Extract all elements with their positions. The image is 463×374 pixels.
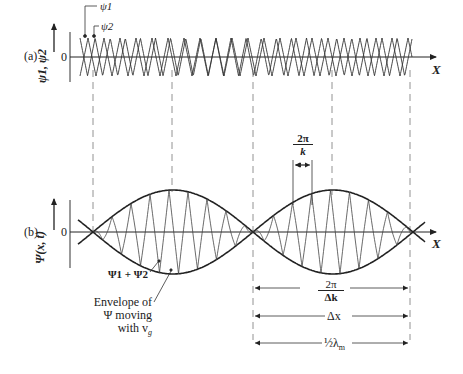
panel-b-x-axis-label: X [432, 236, 441, 252]
psi-label-leaders [84, 6, 100, 38]
annotation-leaders [150, 260, 172, 302]
wave-group-diagram [0, 0, 463, 374]
sum-label: Ψ1 + Ψ2 [108, 268, 148, 280]
panel-b-zero-label: 0 [61, 225, 67, 240]
carrier-period-label: 2π k [293, 132, 313, 157]
panel-a-y-axis-label: ψ1, ψ2 [35, 49, 50, 83]
carrier-period-marker [293, 160, 312, 205]
envelope-label-line-3: with vg [92, 322, 152, 339]
panel-b-y-axis-label: Ψ(x, t) [33, 231, 48, 264]
panel-a-x-axis-label: X [432, 62, 441, 78]
envelope-label: Envelope of Ψ moving with vg [92, 296, 152, 339]
half-lambda-label: ½λm [324, 336, 345, 352]
psi1-label: ψ1 [100, 0, 112, 12]
panel-a-zero-label: 0 [61, 50, 67, 65]
delta-x-label: Δx [327, 309, 341, 324]
envelope-period-label: 2π Δk [318, 278, 344, 303]
psi2-label: ψ2 [101, 20, 113, 32]
